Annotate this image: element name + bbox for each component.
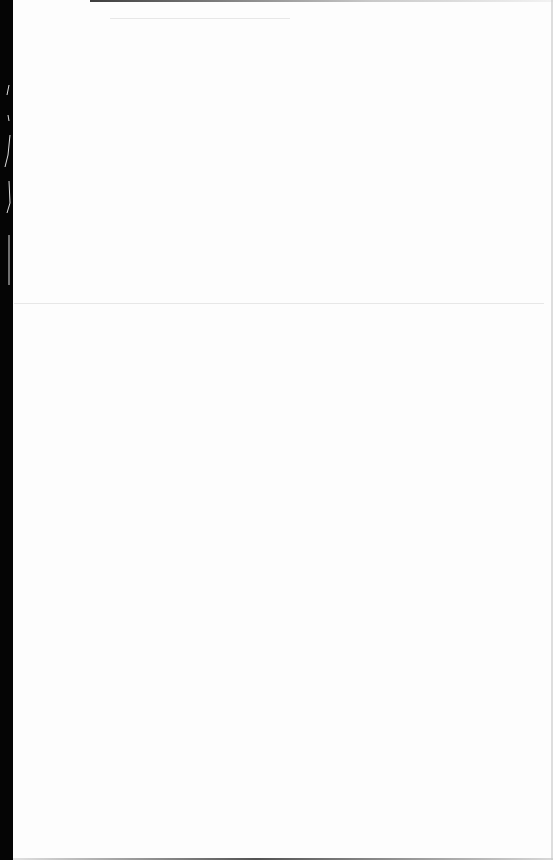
- bleed-through-mark: [14, 303, 544, 304]
- top-scan-edge: [90, 0, 553, 2]
- bleed-through-mark: [110, 18, 290, 19]
- blank-scanned-page: [0, 0, 553, 860]
- binding-marks: [3, 85, 13, 285]
